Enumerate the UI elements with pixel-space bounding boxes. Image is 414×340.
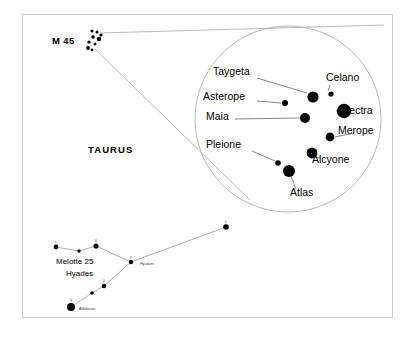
m45-label: M 45 bbox=[52, 35, 75, 46]
leader-line-asterope bbox=[257, 101, 281, 103]
hyades-line bbox=[104, 262, 131, 286]
hyades-star-letter: δ bbox=[95, 239, 97, 243]
aldebaran-label: Aldebaran bbox=[79, 307, 95, 311]
m45-star bbox=[94, 43, 97, 46]
m45-star bbox=[86, 46, 90, 50]
m45-star bbox=[91, 49, 94, 52]
hyades-line bbox=[56, 247, 79, 251]
pleiades-star-taygeta bbox=[307, 91, 318, 102]
hyades-star bbox=[77, 249, 80, 252]
taurus-label: TAURUS bbox=[88, 144, 133, 155]
leader-line-celano bbox=[328, 85, 330, 91]
star-label-asterope: Asterope bbox=[203, 90, 245, 102]
leader-line-taygeta bbox=[257, 78, 307, 93]
hyades-label: Hyades bbox=[66, 269, 93, 278]
pleiades-star-maia bbox=[300, 113, 310, 123]
m45-star bbox=[91, 30, 94, 33]
hyades-star-letter: γ bbox=[130, 255, 132, 259]
m45-star bbox=[91, 35, 95, 39]
hyades-star-letter: α bbox=[70, 298, 72, 302]
star-label-maia: Maia bbox=[206, 110, 229, 122]
star-label-pleione: Pleione bbox=[206, 138, 241, 150]
hyades-star bbox=[129, 260, 134, 265]
m45-star bbox=[87, 40, 90, 43]
m45-star bbox=[97, 37, 101, 41]
pleiades-star-pleione bbox=[275, 160, 281, 166]
hyades-star-letter: ζ bbox=[225, 220, 227, 224]
m45-star bbox=[96, 31, 99, 34]
star-chart-figure: M 45 TAURUS Melotte 25 Hyades Aldebaran … bbox=[0, 0, 414, 340]
star-label-electra: Electra bbox=[340, 104, 373, 116]
hyades-line bbox=[79, 246, 96, 251]
pleiades-star-atlas bbox=[283, 165, 295, 177]
pleiades-star-celano bbox=[328, 91, 333, 96]
hyades-star-letter: ε bbox=[55, 240, 57, 244]
hyades-star bbox=[90, 291, 94, 295]
hyades-star-letter: θ bbox=[103, 279, 105, 283]
hyades-star-group bbox=[54, 224, 229, 311]
star-label-celano: Celano bbox=[326, 71, 359, 83]
leader-line-maia bbox=[235, 118, 300, 119]
pleiades-star-merope bbox=[326, 133, 335, 142]
hyades-star bbox=[67, 303, 75, 311]
hyadum-label: Hyadum bbox=[140, 262, 153, 266]
pleiades-star-labels: TaygetaCelanoAsteropeElectraMaiaMeropePl… bbox=[203, 65, 374, 198]
hyades-connection-lines bbox=[56, 227, 226, 307]
star-label-alcyone: Alcyone bbox=[312, 153, 350, 165]
hyades-line bbox=[131, 227, 226, 262]
hyades-star bbox=[223, 224, 229, 230]
hyades-star bbox=[54, 245, 59, 250]
pleiades-star-asterope bbox=[282, 100, 288, 106]
star-label-taygeta: Taygeta bbox=[213, 65, 250, 77]
hyades-star bbox=[102, 284, 107, 289]
hyades-line bbox=[96, 246, 131, 262]
melotte-label: Melotte 25 bbox=[56, 257, 94, 266]
hyades-star bbox=[93, 243, 98, 248]
star-chart-canvas: M 45 TAURUS Melotte 25 Hyades Aldebaran … bbox=[0, 0, 414, 340]
star-label-merope: Merope bbox=[338, 124, 374, 136]
star-label-atlas: Atlas bbox=[290, 186, 313, 198]
m45-star bbox=[99, 33, 102, 36]
leader-line-pleione bbox=[252, 151, 275, 161]
